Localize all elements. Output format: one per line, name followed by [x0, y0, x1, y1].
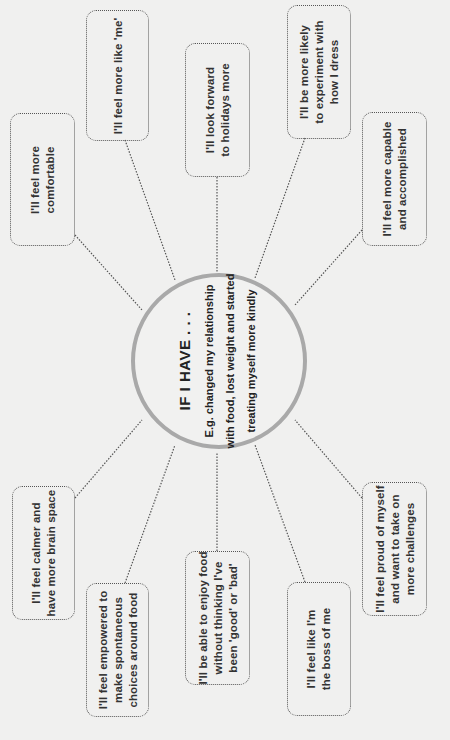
outcome-text: I'll feel more capable and accomplished [380, 122, 410, 237]
outcome-box-dress: I'll be more likely to experiment with h… [287, 5, 351, 139]
outcome-box-calmer: I'll feel calmer and have more brain spa… [12, 486, 75, 620]
outcome-text: I'll be more likely to experiment with h… [297, 20, 342, 123]
connector-comfortable [75, 235, 142, 310]
outcome-box-enjoy-food: I'll be able to enjoy food without think… [185, 551, 250, 685]
outcome-box-comfortable: I'll feel more comfortable [10, 113, 75, 246]
outcome-box-boss: I'll feel like I'm the boss of me [287, 582, 351, 716]
connector-boss [255, 445, 305, 582]
outcome-text: I'll feel more comfortable [28, 145, 58, 213]
connector-proud [295, 420, 362, 498]
connector-dress [255, 138, 305, 278]
outcome-text: I'll feel more like 'me' [110, 17, 125, 134]
connector-like-me [125, 140, 175, 280]
connector-capable [295, 230, 362, 305]
connector-calmer [75, 420, 142, 498]
connector-empowered [125, 445, 175, 583]
outcome-text: I'll feel empowered to make spontaneous … [95, 591, 140, 710]
outcome-box-proud: I'll feel proud of myself and want to ta… [362, 482, 427, 616]
outcome-text: I'll feel calmer and have more brain spa… [29, 490, 59, 617]
outcome-box-holidays: I'll look forward to holidays more [185, 43, 250, 177]
hub-subtitle: E.g. changed my relationship with food, … [199, 273, 262, 449]
hub-title: IF I HAVE . . . [176, 273, 193, 449]
outcome-box-empowered: I'll feel empowered to make spontaneous … [86, 583, 149, 717]
outcome-text: I'll feel like I'm the boss of me [304, 608, 334, 691]
central-hub-circle: IF I HAVE . . . E.g. changed my relation… [131, 273, 307, 449]
mind-map-diagram: I'll feel more comfortable I'll feel mor… [0, 0, 450, 740]
outcome-text: I'll feel proud of myself and want to ta… [372, 485, 417, 612]
outcome-box-like-me: I'll feel more like 'me' [86, 10, 149, 141]
outcome-text: I'll look forward to holidays more [203, 63, 233, 157]
outcome-box-capable: I'll feel more capable and accomplished [362, 112, 427, 246]
outcome-text: I'll be able to enjoy food without think… [195, 551, 240, 684]
